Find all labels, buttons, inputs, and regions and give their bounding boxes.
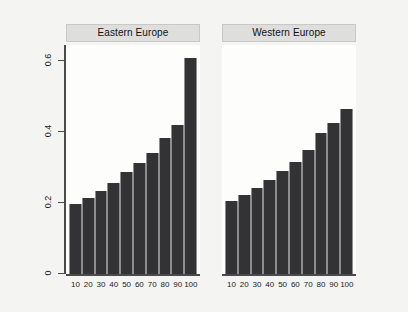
y-tick-label-1: 0.2 xyxy=(41,194,55,210)
y-tick-mark-1 xyxy=(58,202,64,203)
bar xyxy=(238,195,251,274)
bar xyxy=(171,125,184,274)
plot-panel-western-europe xyxy=(222,45,356,274)
x-tick-label: 60 xyxy=(133,278,146,292)
y-tick-mark-3 xyxy=(58,60,64,61)
panel-title-eastern-europe: Eastern Europe xyxy=(66,24,200,42)
bar xyxy=(340,109,353,274)
x-tick-label: 40 xyxy=(107,278,120,292)
x-tick-label: 70 xyxy=(146,278,159,292)
x-tick-label: 10 xyxy=(225,278,238,292)
x-tick-label: 90 xyxy=(327,278,340,292)
panel-title-western-europe: Western Europe xyxy=(222,24,356,42)
bar xyxy=(184,58,197,274)
x-tick-label: 40 xyxy=(263,278,276,292)
chart-figure: mean of Dummy_exp_mean Eastern Europe We… xyxy=(0,0,408,312)
bar xyxy=(107,183,120,274)
x-tick-label: 100 xyxy=(340,278,353,292)
x-tick-labels-eastern-europe: 102030405060708090100 xyxy=(66,278,200,292)
x-tick-label: 70 xyxy=(302,278,315,292)
x-tick-labels-western-europe: 102030405060708090100 xyxy=(222,278,356,292)
bar xyxy=(251,188,264,274)
bar-series-eastern-europe xyxy=(69,45,197,274)
bar-series-western-europe xyxy=(225,45,353,274)
bar xyxy=(159,138,172,274)
y-tick-label-3: 0.6 xyxy=(41,52,55,68)
bar xyxy=(120,172,133,274)
bar xyxy=(315,133,328,274)
bar xyxy=(302,150,315,274)
x-tick-label: 60 xyxy=(289,278,302,292)
x-tick-label: 80 xyxy=(315,278,328,292)
bar xyxy=(263,180,276,274)
x-tick-label: 50 xyxy=(120,278,133,292)
x-axis-line-left xyxy=(66,274,200,276)
x-tick-label: 80 xyxy=(159,278,172,292)
bar xyxy=(82,198,95,274)
bar xyxy=(133,163,146,274)
bar xyxy=(146,153,159,274)
y-tick-mark-0 xyxy=(58,273,64,274)
plot-panel-eastern-europe xyxy=(66,45,200,274)
x-tick-label: 30 xyxy=(251,278,264,292)
bar xyxy=(327,123,340,274)
x-tick-label: 50 xyxy=(276,278,289,292)
y-tick-label-0: 0 xyxy=(41,265,55,281)
x-tick-label: 20 xyxy=(82,278,95,292)
bar xyxy=(69,204,82,274)
x-tick-label: 10 xyxy=(69,278,82,292)
bar xyxy=(95,191,108,274)
x-axis-line-right xyxy=(222,274,356,276)
bar xyxy=(276,171,289,274)
y-tick-label-2: 0.4 xyxy=(41,123,55,139)
x-tick-label: 90 xyxy=(171,278,184,292)
x-tick-label: 100 xyxy=(184,278,197,292)
bar xyxy=(225,201,238,274)
x-tick-label: 30 xyxy=(95,278,108,292)
y-tick-mark-2 xyxy=(58,131,64,132)
bar xyxy=(289,162,302,274)
x-tick-label: 20 xyxy=(238,278,251,292)
